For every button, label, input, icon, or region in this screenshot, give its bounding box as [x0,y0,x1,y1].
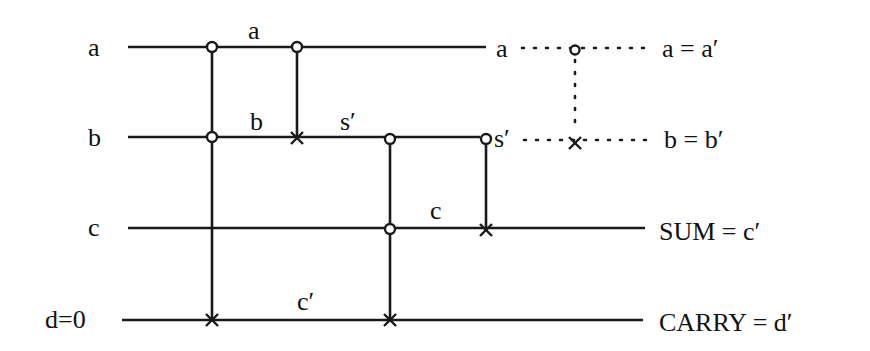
wire-label-b: b [250,107,263,136]
wire-label-a: a [248,16,260,45]
output-label-b: b = b′ [664,125,723,154]
wire-end-label-s-prime: s′ [494,124,510,153]
target-x-icon [569,137,581,149]
wire-label-c-prime: c′ [297,287,314,316]
input-label-c: c [88,213,100,242]
circuit-diagram: a b c d=0 a b s′ c c′ a s′ a = a′ [0,0,870,351]
wire-label-s-prime: s′ [340,107,356,136]
control-dot-icon [481,134,491,144]
wire-label-c: c [430,196,442,225]
control-dot-icon [385,134,395,144]
control-dot-icon [207,42,217,52]
control-dot-icon [571,46,580,55]
output-label-sum: SUM = c′ [659,217,760,246]
wire-end-label-a: a [496,34,508,63]
output-label-a: a = a′ [662,34,718,63]
input-label-b: b [88,123,101,152]
control-dot-icon [385,224,395,234]
output-label-carry: CARRY = d′ [659,308,793,337]
input-label-d: d=0 [45,305,86,334]
input-label-a: a [88,33,100,62]
control-dot-icon [207,132,217,142]
control-dot-icon [292,42,302,52]
